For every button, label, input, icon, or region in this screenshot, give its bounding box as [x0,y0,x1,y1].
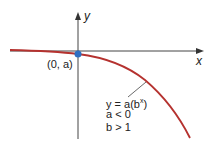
y-intercept-point [75,51,82,58]
y-axis [75,12,81,139]
exponential-curve [10,50,190,138]
x-axis-label: x [196,55,202,67]
condition-a: a < 0 [106,108,131,120]
point-label: (0, a) [47,58,73,70]
condition-b: b > 1 [106,121,131,133]
y-axis-label: y [84,10,90,22]
